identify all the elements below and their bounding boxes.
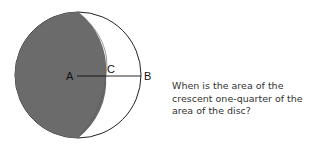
label-a: A (66, 70, 74, 82)
label-b: B (144, 70, 151, 82)
crescent-diagram: A C B (0, 0, 170, 149)
label-c: C (107, 63, 115, 75)
question-text: When is the area of the crescent one-qua… (172, 80, 312, 118)
